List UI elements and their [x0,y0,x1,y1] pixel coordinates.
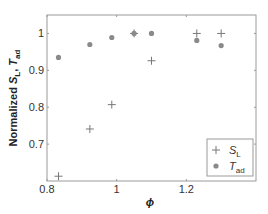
tad-point [131,31,136,36]
scatter-chart: 0.811.20.70.80.91 ϕ Normalized SL, Tad S… [0,0,268,214]
tad-point [87,42,92,47]
tad-point [194,38,199,43]
y-axis-label: Normalized SL, Tad [7,49,22,146]
x-tick-label: 1.2 [179,183,194,195]
x-tick-label: 1 [114,183,120,195]
tad-point [56,55,61,60]
circle-marker-icon [213,163,218,168]
y-tick-label: 0.9 [29,64,44,76]
x-tick-label: 0.8 [39,183,54,195]
y-tick-label: 0.7 [29,138,44,150]
tad-point [219,43,224,48]
tad-point [149,31,154,36]
y-tick-label: 0.8 [29,101,44,113]
x-axis-label: ϕ [146,196,154,208]
tad-point [109,35,114,40]
legend: SL Tad [207,139,253,176]
y-tick-label: 1 [38,27,44,39]
